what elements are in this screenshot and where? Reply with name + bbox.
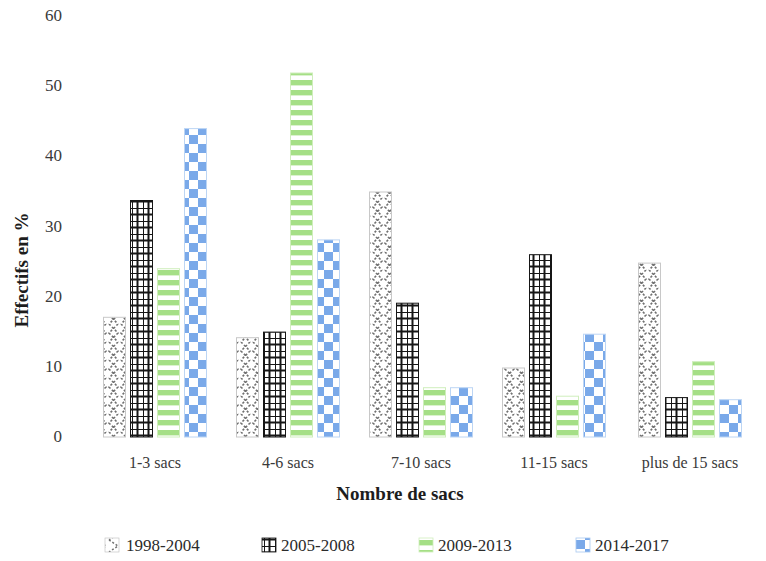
legend-label-2009-2013: 2009-2013: [438, 536, 512, 555]
bar: [451, 388, 473, 437]
legend-swatch-1998-2004: [105, 538, 119, 552]
bar: [104, 317, 126, 437]
bars-layer: [104, 73, 742, 437]
bar: [584, 334, 606, 437]
bar: [158, 269, 180, 437]
x-axis-ticks: 1-3 sacs 4-6 sacs 7-10 sacs 11-15 sacs p…: [129, 454, 738, 472]
bar: [318, 240, 340, 437]
bar: [370, 192, 392, 437]
y-axis-title: Effectifs en %: [11, 212, 32, 327]
chart-figure: 60 50 40 30 20 10 0 Effectifs en % 1-3 s…: [0, 0, 766, 561]
bar: [397, 303, 419, 437]
bar: [720, 400, 742, 437]
x-tick-label: plus de 15 sacs: [642, 454, 738, 472]
bar-group: [104, 129, 207, 437]
y-tick-label: 40: [45, 146, 62, 165]
bar-chart-canvas: 60 50 40 30 20 10 0 Effectifs en % 1-3 s…: [0, 0, 766, 561]
legend-label-2014-2017: 2014-2017: [595, 536, 669, 555]
y-axis-ticks: 60 50 40 30 20 10 0: [45, 6, 62, 446]
bar: [666, 398, 688, 437]
bar-group: [370, 192, 473, 437]
chart-legend: 1998-2004 2005-2008 2009-2013 2014-2017: [105, 536, 669, 555]
y-tick-label: 50: [45, 76, 62, 95]
y-tick-label: 20: [45, 287, 62, 306]
bar-group: [503, 255, 606, 437]
bar: [237, 338, 259, 437]
bar-group: [237, 73, 340, 437]
bar: [693, 362, 715, 437]
bar: [639, 263, 661, 437]
legend-swatch-2014-2017: [576, 538, 590, 552]
bar: [264, 332, 286, 437]
bar: [557, 396, 579, 437]
x-tick-label: 1-3 sacs: [129, 454, 181, 471]
bar: [530, 255, 552, 437]
y-tick-label: 60: [45, 6, 62, 25]
bar-group: [639, 263, 742, 437]
bar: [185, 129, 207, 437]
bar: [424, 388, 446, 437]
bar: [503, 368, 525, 437]
legend-swatch-2009-2013: [419, 538, 433, 552]
legend-label-1998-2004: 1998-2004: [126, 536, 200, 555]
bar: [131, 201, 153, 438]
y-tick-label: 0: [54, 427, 63, 446]
x-tick-label: 4-6 sacs: [262, 454, 314, 471]
bar: [291, 73, 313, 437]
y-tick-label: 10: [45, 357, 62, 376]
x-axis-title: Nombre de sacs: [336, 483, 463, 504]
legend-swatch-2005-2008: [262, 538, 276, 552]
legend-label-2005-2008: 2005-2008: [281, 536, 355, 555]
x-tick-label: 11-15 sacs: [520, 454, 587, 471]
x-tick-label: 7-10 sacs: [391, 454, 451, 471]
y-tick-label: 30: [45, 217, 62, 236]
